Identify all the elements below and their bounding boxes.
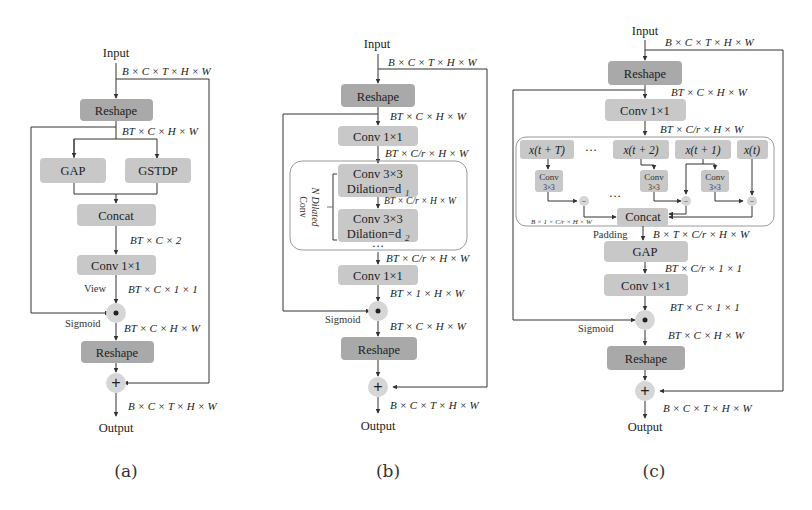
svg-text:3×3: 3×3 [648, 183, 660, 192]
svg-text:View: View [84, 283, 107, 294]
svg-text:3×3: 3×3 [543, 183, 555, 192]
svg-text:+: + [111, 374, 120, 391]
svg-text:−: − [684, 197, 689, 206]
dim-after-reshape: BT × C × H × W [122, 125, 199, 137]
svg-text:3×3: 3×3 [709, 183, 721, 192]
svg-text:Conv 1×1: Conv 1×1 [353, 269, 403, 283]
svg-text:−: − [750, 197, 755, 206]
dim-after-conv2: BT × 1 × H × W [390, 287, 465, 299]
input-label: Input [632, 24, 659, 38]
dim-after-conv: BT × C × 1 × 1 [128, 283, 198, 295]
svg-text:Dilation=d: Dilation=d [347, 182, 402, 196]
dim-input: B × C × T × H × W [122, 65, 212, 77]
dim-input: B × C × T × H × W [388, 56, 478, 68]
dim-difference: B × 1 × C/r × H × W [531, 218, 593, 226]
svg-text:Conv: Conv [644, 172, 664, 182]
svg-text:Conv 1×1: Conv 1×1 [620, 104, 670, 118]
output-label: Output [628, 420, 663, 434]
dim-after-mul: BT × C × H × W [668, 329, 745, 341]
dim-after-conv2: BT × C × 1 × 1 [670, 301, 740, 313]
input-label: Input [364, 37, 391, 51]
dim-after-conv1: BT × C/r × H × W [385, 147, 469, 159]
dim-after-mul: BT × C × H × W [390, 320, 467, 332]
svg-text:Reshape: Reshape [95, 104, 138, 118]
caption-b: (b) [376, 461, 400, 481]
input-label: Input [103, 46, 130, 60]
svg-text:···: ··· [585, 143, 598, 157]
panel-c: Input B × C × T × H × W Reshape BT × C ×… [513, 24, 783, 434]
svg-text:N Dilated: N Dilated [310, 186, 321, 227]
svg-text:Reshape: Reshape [96, 346, 139, 360]
svg-text:Concat: Concat [625, 210, 661, 224]
svg-text:Sigmoid: Sigmoid [325, 314, 361, 325]
diagram-canvas: Input B × C × T × H × W Reshape BT × C ×… [0, 0, 812, 510]
dim-after-concat: BT × C × 2 [130, 234, 182, 246]
dim-after-padding: B × T × C/r × H × W [653, 228, 750, 240]
svg-text:···: ··· [372, 239, 385, 253]
output-label: Output [361, 419, 396, 433]
dim-output: B × C × T × H × W [663, 402, 753, 414]
dim-after-reshape: BT × C × H × W [390, 110, 467, 122]
dim-input: B × C × T × H × W [665, 36, 755, 48]
svg-text:Conv: Conv [298, 196, 309, 218]
svg-text:Conv 1×1: Conv 1×1 [353, 130, 403, 144]
svg-text:Reshape: Reshape [357, 90, 400, 104]
svg-text:Concat: Concat [98, 209, 134, 223]
dim-after-dil-group: BT × C/r × H × W [386, 252, 470, 264]
svg-text:Padding: Padding [593, 229, 628, 240]
svg-text:GAP: GAP [60, 164, 85, 178]
dim-after-mul: BT × C × H × W [124, 322, 201, 334]
dim-after-conv1: BT × C/r × H × W [660, 123, 744, 135]
svg-text:+: + [640, 382, 649, 399]
dim-after-dil1: BT × C/r × H × W [384, 196, 457, 206]
svg-text:x(t + 1): x(t + 1) [684, 144, 720, 157]
svg-text:Reshape: Reshape [624, 67, 667, 81]
svg-text:x(t + T): x(t + T) [528, 144, 565, 157]
svg-text:x(t + 2): x(t + 2) [622, 144, 658, 157]
svg-text:Sigmoid: Sigmoid [65, 318, 101, 329]
svg-text:Conv 1×1: Conv 1×1 [91, 259, 141, 273]
svg-text:Conv: Conv [705, 172, 725, 182]
svg-text:Conv 3×3: Conv 3×3 [353, 167, 403, 181]
caption-c: (c) [643, 461, 666, 481]
svg-text:Conv: Conv [539, 172, 559, 182]
svg-text:GAP: GAP [632, 245, 657, 259]
svg-text:2: 2 [405, 233, 410, 243]
svg-text:x(t): x(t) [743, 144, 760, 157]
svg-text:Sigmoid: Sigmoid [578, 323, 614, 334]
svg-text:Conv 3×3: Conv 3×3 [353, 212, 403, 226]
svg-text:···: ··· [609, 189, 622, 203]
svg-text:+: + [373, 378, 382, 395]
svg-text:−: − [582, 197, 587, 206]
dim-after-gap: BT × C/r × 1 × 1 [665, 262, 742, 274]
svg-text:Reshape: Reshape [358, 343, 401, 357]
svg-text:GSTDP: GSTDP [138, 164, 178, 178]
panel-b: Input B × C × T × H × W Reshape BT × C ×… [283, 37, 487, 433]
dim-output: B × C × T × H × W [390, 399, 480, 411]
dim-output: B × C × T × H × W [128, 400, 218, 412]
svg-text:Conv 1×1: Conv 1×1 [621, 279, 671, 293]
output-label: Output [99, 421, 134, 435]
svg-text:Reshape: Reshape [625, 352, 668, 366]
caption-a: (a) [114, 461, 137, 481]
dim-after-reshape: BT × C × H × W [671, 86, 748, 98]
panel-a: Input B × C × T × H × W Reshape BT × C ×… [31, 46, 218, 435]
